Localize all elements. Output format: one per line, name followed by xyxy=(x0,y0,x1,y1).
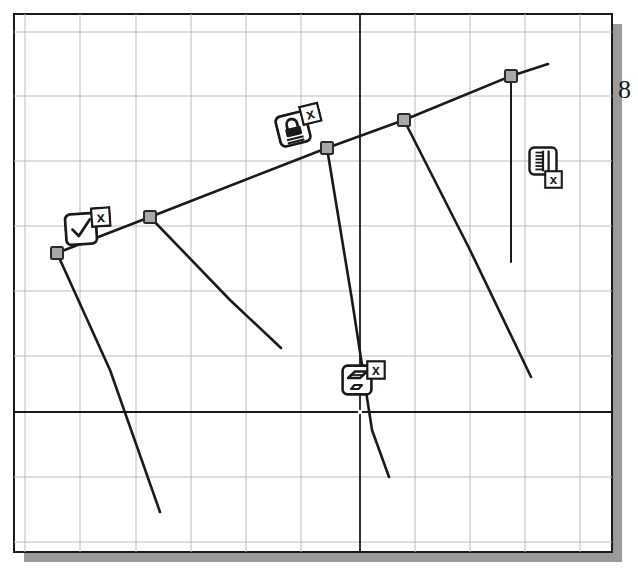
origin-marker xyxy=(358,410,362,414)
node-point-1[interactable] xyxy=(51,247,63,259)
sketch-canvas-root: xxxx 8 xyxy=(0,0,638,570)
dimension-ruler-constraint-body[interactable]: x xyxy=(528,146,558,176)
x-badge-icon[interactable]: x xyxy=(89,206,111,228)
node-point-4[interactable] xyxy=(398,114,410,126)
x-badge-icon[interactable]: x xyxy=(366,360,386,380)
dimension-ruler-constraint[interactable]: x xyxy=(528,146,558,176)
node-handle-point-5[interactable] xyxy=(505,70,517,82)
coincident-check-constraint[interactable]: x xyxy=(63,211,99,247)
page-edge-glyph: 8 xyxy=(618,77,631,103)
node-handle-point-2[interactable] xyxy=(144,211,156,223)
node-point-3[interactable] xyxy=(321,142,333,154)
node-handle-point-1[interactable] xyxy=(51,247,63,259)
x-badge-icon[interactable]: x xyxy=(544,170,563,189)
svg-text:x: x xyxy=(549,172,557,187)
parallel-constraint[interactable]: x xyxy=(341,364,373,396)
coincident-check-constraint-remove-badge[interactable]: x xyxy=(89,206,111,228)
coincident-check-constraint-body[interactable]: x xyxy=(63,211,99,247)
drawing-surface[interactable] xyxy=(0,0,638,570)
paper-sheet xyxy=(14,14,612,552)
parallel-constraint-body[interactable]: x xyxy=(341,364,373,396)
node-point-2[interactable] xyxy=(144,211,156,223)
node-handle-point-4[interactable] xyxy=(398,114,410,126)
node-handle-point-3[interactable] xyxy=(321,142,333,154)
node-point-5[interactable] xyxy=(505,70,517,82)
parallel-constraint-remove-badge[interactable]: x xyxy=(366,360,386,380)
svg-text:x: x xyxy=(372,362,380,378)
dimension-ruler-constraint-remove-badge[interactable]: x xyxy=(544,170,563,189)
